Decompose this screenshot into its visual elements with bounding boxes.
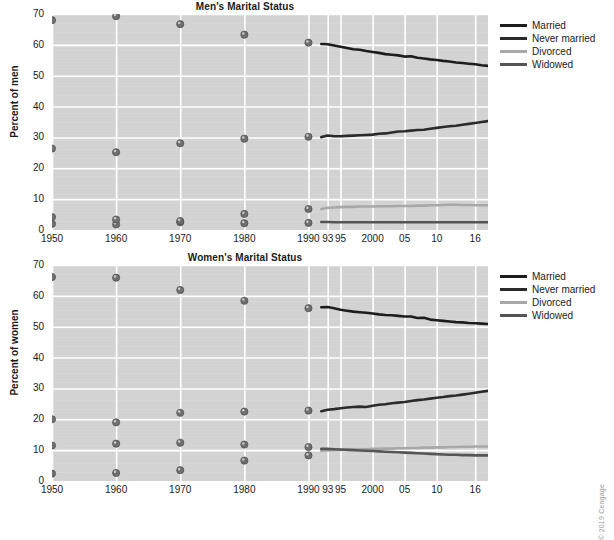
data-point-marker (241, 31, 248, 38)
chart-title-men: Men's Marital Status (0, 1, 490, 12)
legend-label-never-married: Never married (532, 284, 595, 295)
data-point-marker (305, 39, 312, 46)
x-axis-tick-label: 1980 (233, 234, 255, 244)
legend-label-married: Married (532, 20, 566, 31)
legend-women: Married Never married Divorced Widowed (500, 270, 612, 322)
legend-item-widowed[interactable]: Widowed (500, 309, 612, 322)
data-point-marker (177, 140, 184, 147)
x-axis-tick-label: 1980 (233, 485, 255, 495)
data-point-marker (241, 441, 248, 448)
data-point-marker (113, 274, 120, 281)
data-point-marker (113, 440, 120, 447)
chart-title-women: Women's Marital Status (0, 252, 490, 263)
data-point-marker (113, 419, 120, 426)
data-point-marker (113, 469, 120, 476)
data-point-marker (241, 297, 248, 304)
legend-item-divorced[interactable]: Divorced (500, 296, 612, 309)
plot-area-women (52, 265, 488, 481)
legend-men: Married Never married Divorced Widowed (500, 19, 612, 71)
data-point-marker (241, 135, 248, 142)
data-point-marker (305, 305, 312, 312)
x-axis-tick-label: 93 (322, 485, 333, 495)
data-point-marker (177, 217, 184, 224)
x-axis-tick-label: 1960 (105, 234, 127, 244)
y-axis-tick-label: 60 (0, 291, 44, 301)
legend-label-widowed: Widowed (532, 310, 573, 321)
data-point-marker (52, 213, 56, 220)
data-point-marker (305, 407, 312, 414)
legend-swatch-divorced-icon (500, 50, 527, 53)
legend-label-never-married: Never married (532, 33, 595, 44)
data-point-marker (305, 452, 312, 459)
y-axis-tick-label: 50 (0, 322, 44, 332)
chart-svg (52, 14, 488, 230)
data-point-marker (241, 408, 248, 415)
y-axis-tick-label: 70 (0, 260, 44, 270)
x-axis-tick-label: 05 (399, 234, 410, 244)
x-axis-tick-label: 1970 (169, 234, 191, 244)
data-point-marker (305, 443, 312, 450)
y-axis-tick-label: 40 (0, 353, 44, 363)
data-point-marker (177, 21, 184, 28)
legend-swatch-widowed-icon (500, 63, 527, 66)
y-axis-tick-label: 10 (0, 445, 44, 455)
y-axis-tick-label: 10 (0, 194, 44, 204)
plot-area-men (52, 14, 488, 230)
x-axis-tick-label: 16 (470, 485, 481, 495)
data-point-marker (305, 219, 312, 226)
y-axis-tick-label: 40 (0, 102, 44, 112)
data-point-marker (241, 457, 248, 464)
data-point-marker (177, 409, 184, 416)
legend-swatch-widowed-icon (500, 314, 527, 317)
data-point-marker (177, 286, 184, 293)
data-point-marker (113, 149, 120, 156)
legend-swatch-never-married-icon (500, 288, 527, 291)
y-axis-tick-label: 30 (0, 132, 44, 142)
y-axis-tick-label: 20 (0, 163, 44, 173)
x-axis-tick-label: 93 (322, 234, 333, 244)
legend-label-divorced: Divorced (532, 297, 571, 308)
data-point-marker (305, 205, 312, 212)
chart-svg (52, 265, 488, 481)
faint-watermark-men: · · · (372, 3, 393, 10)
legend-item-married[interactable]: Married (500, 270, 612, 283)
legend-label-divorced: Divorced (532, 46, 571, 57)
y-axis-tick-label: 0 (0, 225, 44, 235)
data-point-marker (241, 210, 248, 217)
y-axis-tick-label: 30 (0, 383, 44, 393)
x-axis-tick-label: 95 (335, 234, 346, 244)
y-axis-tick-label: 20 (0, 414, 44, 424)
legend-item-divorced[interactable]: Divorced (500, 45, 612, 58)
legend-swatch-married-icon (500, 275, 527, 278)
x-axis-tick-label: 10 (431, 234, 442, 244)
data-point-marker (113, 216, 120, 223)
x-axis-tick-label: 2000 (361, 234, 383, 244)
data-point-marker (241, 220, 248, 227)
x-axis-tick-label: 16 (470, 234, 481, 244)
x-axis-tick-label: 1990 (297, 234, 319, 244)
legend-swatch-never-married-icon (500, 37, 527, 40)
legend-item-never-married[interactable]: Never married (500, 283, 612, 296)
legend-item-married[interactable]: Married (500, 19, 612, 32)
legend-swatch-married-icon (500, 24, 527, 27)
data-point-marker (52, 470, 56, 477)
x-axis-tick-label: 1950 (41, 485, 63, 495)
x-axis-tick-label: 1950 (41, 234, 63, 244)
legend-label-widowed: Widowed (532, 59, 573, 70)
y-axis-tick-label: 70 (0, 9, 44, 19)
chart-panel-men: Men's Marital Status Percent of men · · … (0, 0, 614, 251)
legend-label-married: Married (532, 271, 566, 282)
x-axis-tick-label: 1990 (297, 485, 319, 495)
legend-item-widowed[interactable]: Widowed (500, 58, 612, 71)
x-axis-tick-label: 2000 (361, 485, 383, 495)
chart-panel-women: Women's Marital Status Percent of women … (0, 251, 614, 502)
data-point-marker (305, 133, 312, 140)
legend-swatch-divorced-icon (500, 301, 527, 304)
y-axis-tick-label: 50 (0, 71, 44, 81)
copyright-notice: © 2019 Cengage (598, 484, 605, 540)
legend-item-never-married[interactable]: Never married (500, 32, 612, 45)
x-axis-tick-label: 1960 (105, 485, 127, 495)
data-point-marker (113, 14, 120, 20)
x-axis-tick-label: 1970 (169, 485, 191, 495)
y-axis-tick-label: 60 (0, 40, 44, 50)
